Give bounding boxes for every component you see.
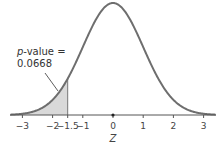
mean-marker [111, 113, 114, 116]
annotation-line1: -value = [23, 46, 65, 57]
normal-distribution-chart: −3−2−1.5−10123Z [0, 0, 222, 154]
x-tick-label: 2 [171, 121, 177, 131]
annotation-leader-line [45, 73, 58, 91]
annotation-value: 0.0668 [17, 58, 66, 70]
x-tick-label: 1 [140, 121, 146, 131]
x-axis-label: Z [109, 133, 118, 144]
x-tick-label: 3 [201, 121, 207, 131]
x-tick-label: −3 [16, 121, 29, 131]
x-tick-label: 0 [110, 121, 116, 131]
x-tick-label: −1 [76, 121, 89, 131]
annotation: p-value = 0.0668 [17, 46, 66, 70]
